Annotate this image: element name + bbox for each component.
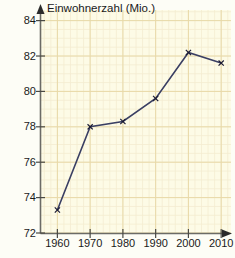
chart-title: Einwohnerzahl (Mio.) xyxy=(47,2,155,15)
population-line-chart: 84828078767472 196019701980199020002010 … xyxy=(0,0,235,258)
y-tick-label-72: 72 xyxy=(6,228,36,239)
y-tick-label-82: 82 xyxy=(6,51,36,62)
data-line-einwohnerzahl xyxy=(57,52,221,210)
y-axis-tick-labels: 84828078767472 xyxy=(0,0,36,258)
minor-gridlines xyxy=(41,10,231,233)
y-tick-label-84: 84 xyxy=(6,15,36,26)
data-point-markers xyxy=(55,50,224,213)
grid-and-series xyxy=(41,10,231,233)
plot-area xyxy=(41,10,231,233)
y-tick-label-76: 76 xyxy=(6,157,36,168)
y-tick-label-78: 78 xyxy=(6,121,36,132)
x-tick-label-2010: 2010 xyxy=(201,238,235,249)
y-tick-label-80: 80 xyxy=(6,86,36,97)
y-tick-label-74: 74 xyxy=(6,192,36,203)
